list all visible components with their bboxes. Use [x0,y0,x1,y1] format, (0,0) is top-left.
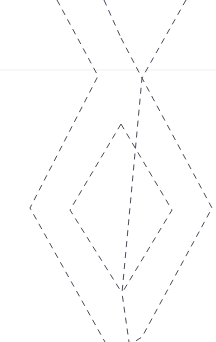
diagram-canvas [0,0,216,342]
geometric-figure [0,0,216,342]
figure-background [0,0,216,342]
